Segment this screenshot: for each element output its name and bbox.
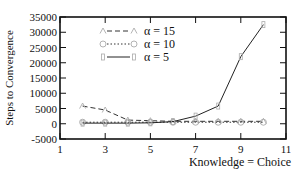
legend-label: α = 10 [144,37,175,51]
chart-canvas: 1357911-50000500010000150002000025000300… [0,0,307,171]
triangle-marker [131,28,137,34]
x-axis-label: Knowledge = Choice [189,155,291,169]
circle-marker [100,41,106,47]
y-tick-label: 20000 [30,57,58,69]
y-tick-label: 35000 [30,11,58,23]
x-tick-label: 3 [102,143,108,155]
x-tick-label: 9 [238,143,244,155]
x-tick-label: 1 [57,143,63,155]
y-tick-label: 30000 [30,26,58,38]
y-tick-label: -5000 [31,133,57,145]
legend-item: α = 10 [100,37,175,51]
x-tick-label: 7 [193,143,199,155]
y-tick-label: 15000 [30,72,58,84]
circle-marker [131,41,137,47]
x-tick-label: 5 [148,143,154,155]
triangle-marker [100,28,106,34]
legend-item: α = 5 [102,50,170,64]
legend-label: α = 15 [144,24,175,38]
y-tick-label: 25000 [30,42,58,54]
square-marker [133,54,136,60]
x-tick-label: 11 [281,143,292,155]
square-marker [102,54,105,60]
legend: α = 15α = 10α = 5 [100,24,175,64]
y-tick-label: 10000 [30,87,58,99]
y-tick-label: 0 [52,118,58,130]
legend-item: α = 15 [100,24,175,38]
legend-label: α = 5 [144,50,169,64]
line-chart: 1357911-50000500010000150002000025000300… [0,0,307,171]
y-tick-label: 5000 [35,103,58,115]
y-axis-label: Steps to Convergence [3,30,15,126]
triangle-marker [80,103,86,109]
